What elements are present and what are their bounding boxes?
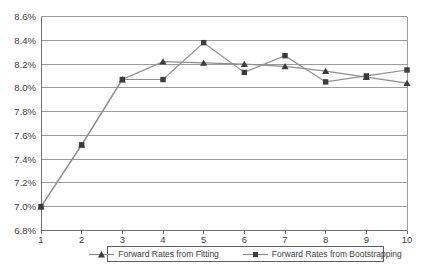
- x-axis-tick-label: 3: [120, 234, 125, 245]
- x-axis-tick-label: 7: [282, 234, 287, 245]
- data-point-square: [160, 77, 165, 82]
- data-point-square: [282, 53, 287, 58]
- triangle-series-marker-icon: [89, 250, 114, 259]
- y-axis-tick-label: 8.0%: [14, 82, 36, 93]
- legend-label-bootstrapping: Forward Rates from Bootstrapping: [272, 250, 402, 259]
- x-axis-tick-label: 1: [38, 234, 43, 245]
- x-axis-tick-label: 10: [402, 234, 413, 245]
- y-axis-tick-label: 8.4%: [14, 35, 36, 46]
- square-series-marker-icon: [243, 250, 268, 259]
- legend-item-bootstrapping: Forward Rates from Bootstrapping: [243, 250, 402, 259]
- legend-label-fitting: Forward Rates from Fitting: [118, 250, 219, 259]
- y-axis-tick-label: 7.4%: [14, 154, 36, 165]
- y-axis-tick-label: 6.8%: [14, 225, 36, 236]
- data-point-square: [242, 70, 247, 75]
- series-line-bootstrapping: [41, 43, 407, 207]
- data-point-square: [323, 79, 328, 84]
- y-axis-tick-label: 7.8%: [14, 106, 36, 117]
- data-point-square: [404, 67, 409, 72]
- chart-plot-area: 6.8%7.0%7.2%7.4%7.6%7.8%8.0%8.2%8.4%8.6%…: [0, 0, 426, 245]
- y-axis-tick-label: 8.2%: [14, 59, 36, 70]
- x-axis-tick-label: 6: [242, 234, 247, 245]
- data-point-square: [38, 204, 43, 209]
- x-axis-tick-label: 8: [323, 234, 328, 245]
- legend-item-fitting: Forward Rates from Fitting: [89, 250, 219, 259]
- data-point-square: [364, 73, 369, 78]
- forward-rates-chart: 6.8%7.0%7.2%7.4%7.6%7.8%8.0%8.2%8.4%8.6%…: [0, 0, 426, 273]
- y-axis-tick-label: 7.2%: [14, 177, 36, 188]
- x-axis-tick-label: 9: [364, 234, 369, 245]
- data-point-square: [120, 77, 125, 82]
- x-axis-tick-label: 5: [201, 234, 206, 245]
- y-axis-tick-label: 7.0%: [14, 201, 36, 212]
- chart-legend: Forward Rates from Fitting Forward Rates…: [107, 246, 384, 262]
- series-line-fitting: [41, 62, 407, 207]
- x-axis-tick-label: 4: [160, 234, 165, 245]
- y-axis-tick-label: 7.6%: [14, 130, 36, 141]
- x-axis-tick-label: 2: [79, 234, 84, 245]
- y-axis-tick-label: 8.6%: [14, 11, 36, 22]
- data-point-square: [201, 40, 206, 45]
- data-point-square: [79, 142, 84, 147]
